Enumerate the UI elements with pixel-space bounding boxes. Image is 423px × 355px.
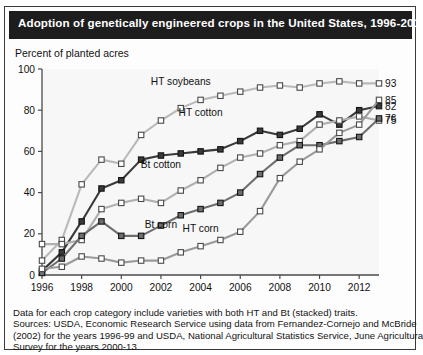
series-end-value: 76 (385, 113, 397, 124)
data-point-marker (277, 83, 282, 88)
data-point-marker (277, 143, 282, 148)
footnote-line-3: (2002) for the years 1996-99 and USDA, N… (13, 330, 409, 341)
data-point-marker (337, 118, 342, 123)
data-point-marker (59, 264, 64, 269)
data-point-marker (277, 175, 282, 180)
x-tick-label: 1998 (70, 282, 93, 293)
data-point-marker (257, 171, 262, 176)
data-point-marker (238, 229, 243, 234)
data-point-marker (238, 89, 243, 94)
x-tick-label: 2004 (189, 282, 212, 293)
data-point-marker (158, 200, 163, 205)
data-point-marker (79, 233, 84, 238)
data-point-marker (257, 128, 262, 133)
series-end-value: 85 (385, 95, 397, 106)
data-point-marker (59, 250, 64, 255)
data-point-marker (119, 161, 124, 166)
data-point-marker (39, 266, 44, 271)
data-point-marker (178, 213, 183, 218)
y-tick-label: 40 (24, 187, 36, 198)
data-point-marker (376, 81, 381, 86)
data-point-marker (198, 97, 203, 102)
x-tick-label: 2000 (110, 282, 133, 293)
data-point-marker (198, 243, 203, 248)
series-end-value: 93 (385, 78, 397, 89)
data-point-marker (257, 85, 262, 90)
data-point-marker (356, 134, 361, 139)
data-point-marker (257, 208, 262, 213)
data-point-marker (79, 254, 84, 259)
data-point-marker (356, 81, 361, 86)
data-point-marker (158, 118, 163, 123)
data-point-marker (198, 206, 203, 211)
data-point-marker (257, 151, 262, 156)
data-point-marker (297, 85, 302, 90)
data-point-marker (218, 200, 223, 205)
data-point-marker (218, 165, 223, 170)
footnotes-block: Data for each crop category include vari… (13, 307, 409, 352)
data-point-marker (99, 157, 104, 162)
x-tick-label: 2010 (308, 282, 331, 293)
data-point-marker (198, 149, 203, 154)
data-point-marker (218, 237, 223, 242)
data-point-marker (238, 138, 243, 143)
data-point-marker (99, 256, 104, 261)
data-point-marker (79, 219, 84, 224)
data-point-marker (337, 79, 342, 84)
data-point-marker (138, 196, 143, 201)
data-point-marker (99, 206, 104, 211)
data-point-marker (178, 188, 183, 193)
data-point-marker (39, 241, 44, 246)
data-point-marker (59, 256, 64, 261)
footnote-line-4: Survey for the years 2000-13. (13, 341, 409, 352)
data-point-marker (158, 258, 163, 263)
y-tick-label: 0 (29, 270, 35, 281)
data-point-marker (218, 93, 223, 98)
data-point-marker (376, 97, 381, 102)
data-point-marker (119, 260, 124, 265)
data-point-marker (317, 81, 322, 86)
data-point-marker (198, 178, 203, 183)
data-point-marker (356, 108, 361, 113)
chart-figure: Adoption of genetically engineered crops… (4, 6, 416, 350)
y-tick-label: 80 (24, 105, 36, 116)
data-point-marker (178, 151, 183, 156)
data-point-marker (337, 138, 342, 143)
series-label: Bt cotton (141, 159, 181, 170)
data-point-marker (317, 112, 322, 117)
data-point-marker (356, 122, 361, 127)
y-tick-label: 20 (24, 228, 36, 239)
data-point-marker (297, 159, 302, 164)
data-point-marker (218, 147, 223, 152)
series-label: HT cotton (179, 107, 223, 118)
series-label: HT soybeans (151, 76, 211, 87)
data-point-marker (59, 241, 64, 246)
data-point-marker (277, 155, 282, 160)
x-tick-label: 2008 (269, 282, 292, 293)
data-point-marker (317, 122, 322, 127)
footnote-line-1: Data for each crop category include vari… (13, 307, 409, 318)
data-point-marker (238, 155, 243, 160)
x-tick-label: 2006 (229, 282, 252, 293)
data-point-marker (297, 126, 302, 131)
data-point-marker (119, 200, 124, 205)
data-point-marker (99, 219, 104, 224)
data-point-marker (356, 114, 361, 119)
data-point-marker (158, 153, 163, 158)
data-point-marker (138, 132, 143, 137)
data-point-marker (99, 186, 104, 191)
x-tick-label: 2012 (348, 282, 371, 293)
line-chart-plot: 0204060801001996199820002002200420062008… (5, 7, 417, 351)
x-tick-label: 1996 (31, 282, 54, 293)
data-point-marker (376, 116, 381, 121)
data-point-marker (119, 233, 124, 238)
data-point-marker (138, 258, 143, 263)
footnote-line-2: Sources: USDA, Economic Research Service… (13, 318, 409, 329)
data-point-marker (238, 190, 243, 195)
data-point-marker (376, 103, 381, 108)
data-point-marker (119, 178, 124, 183)
data-point-marker (297, 143, 302, 148)
data-point-marker (337, 130, 342, 135)
y-tick-label: 60 (24, 146, 36, 157)
series-label: HT corn (183, 223, 219, 234)
